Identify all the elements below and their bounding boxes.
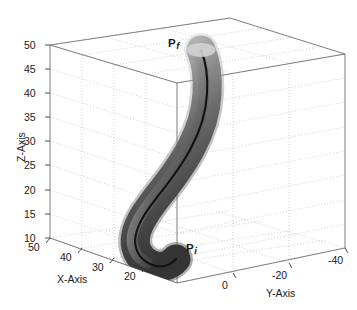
x-tick-40: 40 (60, 252, 72, 263)
z-tick-50: 50 (24, 40, 36, 51)
z-tick-35: 35 (24, 112, 36, 123)
y-tick--40: -40 (328, 255, 343, 266)
x-axis-label: X-Axis (57, 274, 87, 285)
z-axis-ticks (45, 45, 50, 238)
z-tick-20: 20 (24, 185, 36, 196)
x-tick-20: 20 (124, 271, 136, 282)
initial-point-letter: P (186, 242, 194, 254)
y-axis-label: Y-Axis (266, 288, 295, 299)
final-point-label: Pf (168, 38, 179, 50)
final-point-subscript: f (176, 40, 179, 51)
initial-point-subscript: i (194, 245, 197, 256)
z-tick-45: 45 (24, 64, 36, 75)
z-tick-40: 40 (24, 88, 36, 99)
figure-3d-plot: 50 45 40 35 30 25 20 15 10 Z-Axis 50 40 … (0, 0, 357, 310)
x-tick-50: 50 (28, 242, 40, 253)
y-tick-0: 0 (222, 280, 228, 291)
initial-point-label: Pi (186, 243, 196, 255)
x-tick-30: 30 (92, 262, 104, 273)
z-axis-label: Z-Axis (16, 132, 27, 162)
tube-end-cap-final (187, 43, 216, 57)
tube-trajectory (132, 43, 215, 266)
final-point-letter: P (168, 37, 176, 49)
y-tick--20: -20 (272, 270, 287, 281)
z-tick-15: 15 (24, 209, 36, 220)
